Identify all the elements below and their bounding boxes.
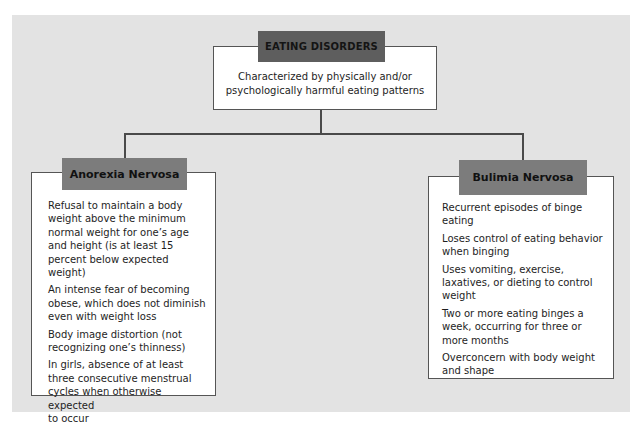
connector-left-vertical — [124, 133, 126, 158]
bulimia-nervosa-box: Recurrent episodes of binge eating Loses… — [428, 176, 614, 379]
criteria-item: Two or more eating binges a week, occurr… — [442, 307, 605, 347]
criteria-item: Body image distortion (not recognizing o… — [48, 328, 207, 355]
root-node-title: EATING DISORDERS — [258, 31, 385, 62]
root-node-description: Characterized by physically and/or psych… — [214, 70, 436, 98]
connector-right-vertical — [522, 133, 524, 160]
anorexia-nervosa-box: Refusal to maintain a body weight above … — [31, 172, 216, 396]
criteria-item: Overconcern with body weight and shape — [442, 351, 605, 378]
connector-horizontal — [124, 133, 524, 135]
criteria-item: Refusal to maintain a body weight above … — [48, 199, 207, 279]
anorexia-nervosa-header: Anorexia Nervosa — [62, 158, 187, 190]
criteria-item: An intense fear of becoming obese, which… — [48, 283, 207, 323]
criteria-item: Uses vomiting, exercise, laxatives, or d… — [442, 263, 605, 303]
anorexia-criteria-list: Refusal to maintain a body weight above … — [48, 199, 207, 428]
bulimia-nervosa-header: Bulimia Nervosa — [459, 160, 587, 195]
bulimia-criteria-list: Recurrent episodes of binge eating Loses… — [442, 201, 605, 382]
criteria-item: Recurrent episodes of binge eating — [442, 201, 605, 228]
connector-root-vertical — [320, 110, 322, 134]
criteria-item: In girls, absence of at least three cons… — [48, 358, 207, 425]
criteria-item: Loses control of eating behavior when bi… — [442, 232, 605, 259]
